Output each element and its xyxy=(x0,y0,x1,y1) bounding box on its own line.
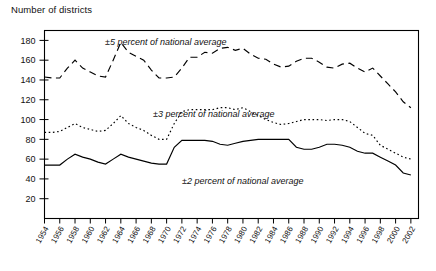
x-tick-label: 1954 xyxy=(34,225,51,245)
x-axis-ticks xyxy=(45,219,411,224)
y-tick-label: 20 xyxy=(25,194,35,204)
line-chart-plot: 20406080100120140160180 1954195619581960… xyxy=(0,0,436,271)
x-tick-label: 1998 xyxy=(370,225,387,245)
x-tick-label: 1966 xyxy=(126,225,143,245)
x-tick-label: 1970 xyxy=(156,225,173,245)
x-tick-label: 1956 xyxy=(49,225,66,245)
x-tick-label: 1986 xyxy=(278,225,295,245)
y-tick-label: 60 xyxy=(25,154,35,164)
x-tick-label: 1988 xyxy=(294,225,311,245)
x-tick-label: 1974 xyxy=(187,225,204,245)
x-tick-label: 1994 xyxy=(339,225,356,245)
y-tick-label: 180 xyxy=(20,36,35,46)
y-tick-label: 40 xyxy=(25,174,35,184)
series-line-1 xyxy=(45,42,411,107)
x-axis-tick-labels: 1954195619581960196219641966196819701972… xyxy=(34,225,417,245)
x-tick-label: 1964 xyxy=(110,225,127,245)
y-tick-label: 120 xyxy=(20,95,35,105)
series-annotation-2: ±3 percent of national average xyxy=(153,109,275,119)
x-tick-label: 1996 xyxy=(355,225,372,245)
x-tick-label: 1982 xyxy=(248,225,265,245)
x-tick-label: 1958 xyxy=(65,225,82,245)
x-tick-label: 1990 xyxy=(309,225,326,245)
x-tick-label: 1968 xyxy=(141,225,158,245)
x-tick-label: 1978 xyxy=(217,225,234,245)
y-axis-tick-labels: 20406080100120140160180 xyxy=(20,36,35,204)
y-tick-label: 80 xyxy=(25,135,35,145)
y-tick-label: 160 xyxy=(20,55,35,65)
series-line-3 xyxy=(45,139,411,175)
series-annotation-3: ±2 percent of national average xyxy=(182,176,304,186)
x-tick-label: 2002 xyxy=(400,225,417,245)
x-tick-label: 1960 xyxy=(80,225,97,245)
chart-container: Number of districts 20406080100120140160… xyxy=(0,0,436,271)
x-tick-label: 1972 xyxy=(171,225,188,245)
x-tick-label: 1980 xyxy=(232,225,249,245)
x-tick-label: 1962 xyxy=(95,225,112,245)
series-annotation-1: ±5 percent of national average xyxy=(105,37,227,47)
x-tick-label: 1984 xyxy=(263,225,280,245)
x-tick-label: 1992 xyxy=(324,225,341,245)
x-tick-label: 1976 xyxy=(202,225,219,245)
plot-frame xyxy=(45,31,419,219)
y-tick-label: 100 xyxy=(20,115,35,125)
x-tick-label: 2000 xyxy=(385,225,402,245)
series-annotations-group: ±5 percent of national average±3 percent… xyxy=(105,37,304,186)
y-tick-label: 140 xyxy=(20,75,35,85)
